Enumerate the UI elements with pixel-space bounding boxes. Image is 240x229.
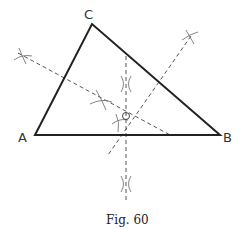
diagram-canvas: A B C Fig. 60: [0, 0, 240, 229]
vertex-label-a: A: [18, 130, 27, 145]
arc-mark-ac-outer: [14, 48, 32, 64]
arc-mark-bc-outer: [182, 30, 198, 44]
figure-caption: Fig. 60: [106, 213, 149, 227]
vertex-label-c: C: [84, 7, 93, 22]
arc-mark-ac-inner: [90, 90, 112, 110]
bisector-bc: [108, 36, 191, 155]
vertex-label-b: B: [223, 130, 232, 145]
triangle-figure: A B C Fig. 60: [0, 0, 240, 229]
